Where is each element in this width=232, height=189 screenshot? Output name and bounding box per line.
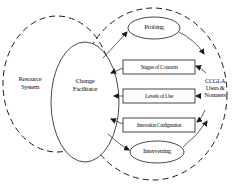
change-facilitator-ellipse: [51, 42, 119, 162]
arrow-facilitator-to-intervening: [108, 134, 129, 150]
probing-label: Probing: [130, 22, 178, 34]
innovation-configuration-label: Innovation Configuration: [123, 118, 195, 132]
arrow-facilitator-to-probing: [103, 32, 127, 58]
resource-system-label: Resource System: [12, 76, 48, 91]
users-nonusers-label: CCGLA Users & Nonusers: [199, 77, 231, 98]
arrow-users-to-stages: [196, 66, 206, 73]
arrow-probing-to-users: [179, 32, 204, 54]
diagram-canvas: [0, 0, 232, 189]
intervening-label: Intervening: [132, 146, 182, 158]
levels-of-use-label: Levels of Use: [123, 89, 195, 103]
change-facilitator-label: Change Facilitator: [60, 78, 110, 93]
arrow-users-to-innovation: [197, 110, 205, 122]
stages-of-concern-label: Stages of Concern: [123, 60, 195, 74]
